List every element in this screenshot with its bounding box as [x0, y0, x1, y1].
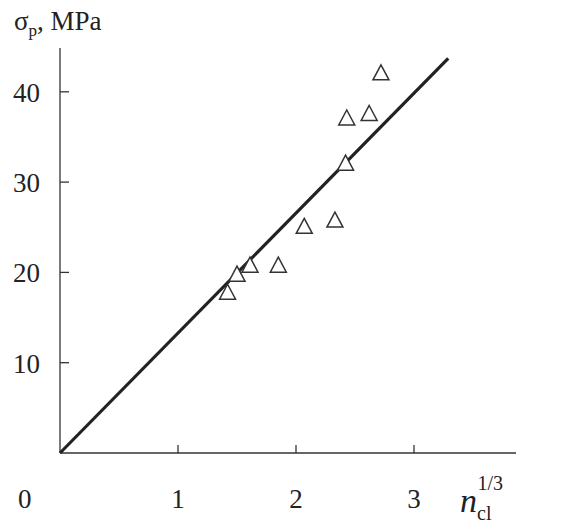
x-axis-superscript: 1/3 [477, 472, 503, 494]
x-axis-label: ncl1/3 [460, 484, 517, 523]
y-axis-subscript: p [29, 21, 38, 40]
y-tick-label: 10 [13, 349, 40, 379]
x-tick-label: 3 [407, 484, 421, 514]
triangle-marker [270, 257, 286, 272]
y-axis-unit: , MPa [37, 6, 102, 36]
triangle-marker [296, 218, 312, 233]
triangle-marker [373, 65, 389, 80]
y-tick-label: 40 [13, 78, 40, 108]
x-tick-label: 2 [289, 484, 303, 514]
x-tick-label: 0 [18, 484, 32, 514]
y-axis-symbol: σ [14, 6, 29, 36]
x-axis-subscript: cl [477, 502, 491, 524]
y-tick-label: 30 [13, 168, 40, 198]
x-axis-symbol: n [460, 482, 477, 519]
triangle-marker [361, 105, 377, 120]
y-axis-label: σp, MPa [14, 8, 102, 39]
y-tick-label: 20 [13, 258, 40, 288]
plot-area: 012310203040 [0, 0, 570, 525]
fit-line [60, 58, 448, 453]
triangle-marker [339, 110, 355, 125]
x-tick-label: 1 [171, 484, 185, 514]
triangle-marker [327, 212, 343, 227]
